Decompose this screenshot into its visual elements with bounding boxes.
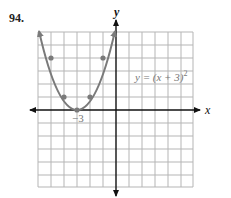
- equation-label: y = (x + 3)2: [134, 69, 187, 84]
- graph: y x −3 y = (x + 3)2: [0, 0, 231, 198]
- point-marker: [87, 94, 92, 99]
- y-axis-label: y: [112, 5, 120, 19]
- tick-label-minus-3: −3: [72, 112, 84, 124]
- point-marker: [61, 94, 66, 99]
- x-axis-label: x: [204, 103, 211, 117]
- point-marker: [48, 55, 53, 60]
- axes: [30, 20, 200, 196]
- point-marker: [100, 55, 105, 60]
